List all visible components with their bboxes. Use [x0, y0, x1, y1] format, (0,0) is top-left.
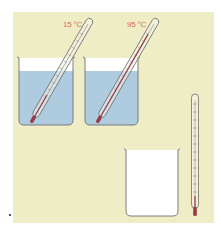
thermometer-loose — [192, 94, 199, 216]
beaker-empty — [124, 149, 180, 216]
label-hot-temp: 95 °C — [127, 20, 146, 29]
label-cold-temp: 15 °C — [63, 20, 82, 29]
edge-mark — [9, 214, 11, 216]
diagram-scene — [0, 0, 221, 232]
bulb-loose — [193, 207, 197, 216]
